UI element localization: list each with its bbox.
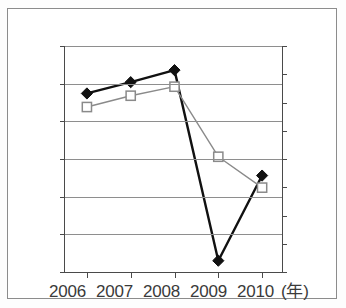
gridline (65, 121, 282, 122)
caption-remnant (6, 0, 156, 7)
series-black-diamond-series (81, 65, 267, 267)
gridline (65, 197, 282, 198)
y-axis-left-tick (60, 159, 65, 160)
y-axis-right-tick (282, 216, 287, 217)
y-axis-left-tick (60, 234, 65, 235)
y-axis-left-tick (60, 46, 65, 47)
y-axis-left-tick (60, 121, 65, 122)
x-axis-line (65, 272, 282, 273)
y-axis-right-tick (282, 187, 287, 188)
y-axis-right-tick (282, 272, 287, 273)
chart-figure: 1.101.051.000.950.900.850.806.00%5.00%4.… (0, 0, 346, 308)
plot-area: 1.101.051.000.950.900.850.806.00%5.00%4.… (64, 46, 283, 272)
gridline (65, 46, 282, 47)
y-axis-right-tick (282, 159, 287, 160)
y-axis-left-tick (60, 84, 65, 85)
y-axis-right-tick (282, 131, 287, 132)
x-axis-label: 2006 (44, 282, 91, 302)
y-axis-right-tick (282, 244, 287, 245)
gridline (65, 234, 282, 235)
y-axis-right-tick (282, 74, 287, 75)
x-axis-label: 2010 (232, 282, 279, 302)
y-axis-right-tick (282, 46, 287, 47)
gridline (65, 84, 282, 85)
y-axis-right-tick (282, 103, 287, 104)
x-axis-label: 2007 (91, 282, 138, 302)
series-gray-square-series (82, 82, 266, 192)
x-axis-label: 2009 (185, 282, 232, 302)
gridline (65, 159, 282, 160)
x-axis-label: 2008 (138, 282, 185, 302)
x-axis-labels: 20062007200820092010(年) (44, 277, 334, 302)
y-axis-left-tick (60, 197, 65, 198)
chart-frame: 1.101.051.000.950.900.850.806.00%5.00%4.… (7, 8, 337, 299)
x-axis-unit-label: (年) (281, 277, 309, 302)
